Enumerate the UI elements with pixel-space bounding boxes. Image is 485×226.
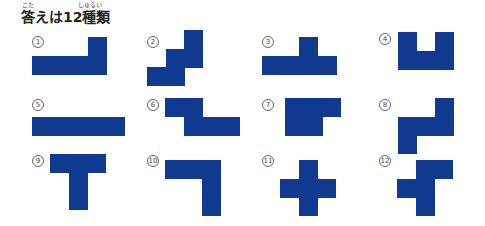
piece-cell <box>88 37 107 56</box>
piece-cell <box>285 98 304 117</box>
piece-cell <box>69 173 88 192</box>
piece-cell <box>299 56 318 75</box>
piece-number-label: 1 <box>32 36 44 48</box>
piece-cell <box>88 117 107 136</box>
title-text: 答えは12種類 <box>21 9 110 25</box>
piece-cell <box>398 51 417 70</box>
piece-cell <box>165 98 184 117</box>
piece-cell <box>69 191 88 210</box>
piece-number-label: 11 <box>262 155 274 167</box>
piece-number-label: 8 <box>379 99 391 111</box>
piece-cell <box>184 49 203 68</box>
piece-number-label: 3 <box>262 36 274 48</box>
piece-cell <box>304 98 323 117</box>
piece-cell <box>69 154 88 173</box>
piece-cell <box>166 67 185 86</box>
piece-cell <box>285 117 304 136</box>
piece-number-label: 7 <box>262 99 274 111</box>
piece-cell <box>416 197 435 216</box>
piece-cell <box>262 56 281 75</box>
piece-cell <box>69 56 88 75</box>
ruby-shurui: しゅるい <box>78 0 102 9</box>
piece-cell <box>50 154 69 173</box>
piece-number-label: 12 <box>379 155 391 167</box>
piece-number-label: 9 <box>32 155 44 167</box>
piece-cell <box>51 117 70 136</box>
piece-cell <box>69 117 88 136</box>
piece-cell <box>398 32 417 51</box>
piece-cell <box>416 160 435 179</box>
piece-cell <box>397 179 416 198</box>
piece-cell <box>322 98 341 117</box>
piece-cell <box>202 160 221 179</box>
piece-cell <box>32 56 51 75</box>
piece-number-label: 6 <box>147 99 159 111</box>
piece-cell <box>299 160 318 179</box>
piece-number-label: 2 <box>147 36 159 48</box>
piece-cell <box>106 117 125 136</box>
piece-cell <box>398 135 417 154</box>
piece-cell <box>202 117 221 136</box>
piece-cell <box>416 179 435 198</box>
page-title: 答えは12種類 <box>21 6 110 26</box>
piece-cell <box>184 30 203 49</box>
piece-cell <box>417 51 436 70</box>
piece-cell <box>32 117 51 136</box>
piece-cell <box>304 117 323 136</box>
piece-cell <box>318 56 337 75</box>
piece-number-label: 4 <box>379 33 391 45</box>
piece-cell <box>434 160 453 179</box>
piece-cell <box>202 179 221 198</box>
piece-cell <box>435 51 454 70</box>
piece-cell <box>51 56 70 75</box>
piece-cell <box>184 98 203 117</box>
ruby-kota: こた <box>22 0 34 9</box>
piece-number-label: 10 <box>147 155 159 167</box>
piece-cell <box>166 49 185 68</box>
piece-cell <box>87 154 106 173</box>
piece-cell <box>184 117 203 136</box>
piece-cell <box>88 56 107 75</box>
piece-cell <box>299 179 318 198</box>
piece-cell <box>184 160 203 179</box>
piece-cell <box>280 179 299 198</box>
piece-cell <box>281 56 300 75</box>
piece-cell <box>299 37 318 56</box>
piece-cell <box>147 67 166 86</box>
piece-cell <box>221 117 240 136</box>
piece-cell <box>317 179 336 198</box>
piece-cell <box>435 32 454 51</box>
piece-number-label: 5 <box>32 99 44 111</box>
piece-cell <box>435 117 454 136</box>
piece-cell <box>435 98 454 117</box>
piece-cell <box>299 197 318 216</box>
piece-cell <box>202 197 221 216</box>
piece-cell <box>417 117 436 136</box>
piece-cell <box>165 160 184 179</box>
piece-cell <box>398 117 417 136</box>
